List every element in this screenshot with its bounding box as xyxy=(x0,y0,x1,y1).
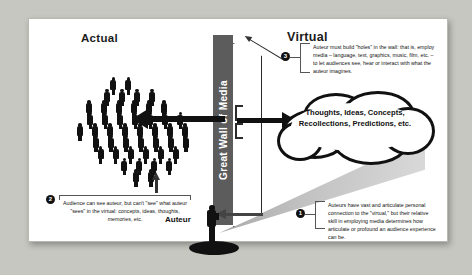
audience-figure-icon xyxy=(121,158,128,176)
callout-2-text: Audience can see auteur, but can't "see"… xyxy=(59,199,191,223)
audience-figure-icon xyxy=(133,169,140,187)
diagram-panel: Actual Virtual Great Wall of Media xyxy=(28,18,448,242)
audience-figure-icon xyxy=(97,146,104,164)
camera-icon xyxy=(214,213,219,220)
audience-crowd xyxy=(51,77,203,187)
callout-1-bullet: 1 xyxy=(296,209,305,218)
arrow-to-auteur-icon xyxy=(225,213,263,216)
callout-2: Audience can see auteur, but can't "see"… xyxy=(59,195,191,217)
audience-figure-icon xyxy=(183,135,190,153)
virtual-cloud: Thoughts, Ideas, Concepts, Recollections… xyxy=(277,91,433,167)
diagram-canvas: Actual Virtual Great Wall of Media xyxy=(0,0,472,275)
wall-label-text: Great Wall of Media xyxy=(218,80,229,180)
audience-figure-icon xyxy=(166,158,173,176)
callout-1: Auteurs have vast and articulate persona… xyxy=(315,201,437,227)
cloud-text: Thoughts, Ideas, Concepts, Recollections… xyxy=(285,107,425,129)
audience-figure-icon xyxy=(112,146,119,164)
wall-label: Great Wall of Media xyxy=(213,35,233,225)
callout-3: Auteur must build "holes" in the wall: t… xyxy=(300,43,434,71)
arrow-to-audience-icon xyxy=(147,116,225,122)
audience-figure-icon xyxy=(127,146,134,164)
heading-actual: Actual xyxy=(81,32,118,44)
wall-hole-lower-icon xyxy=(235,123,243,139)
diagram-content: Actual Virtual Great Wall of Media xyxy=(29,19,447,241)
callout-2-bullet: 2 xyxy=(46,195,55,204)
callout-3-bracket xyxy=(300,43,310,73)
audience-figure-icon xyxy=(172,146,179,164)
audience-figure-icon xyxy=(142,146,149,164)
auteur-legs xyxy=(209,226,215,244)
callout-1-bracket xyxy=(315,201,325,229)
audience-figure-icon xyxy=(76,123,83,141)
heading-virtual: Virtual xyxy=(287,30,328,44)
callout-3-text: Auteur must build "holes" in the wall: t… xyxy=(313,43,435,75)
auteur-figure-icon xyxy=(205,205,219,247)
arrow-audience-to-auteur-icon xyxy=(155,179,158,193)
audience-figure-icon xyxy=(125,77,132,95)
callout-1-text: Auteurs have vast and articulate persona… xyxy=(328,201,438,241)
callout-2-bracket xyxy=(59,195,191,197)
audience-figure-icon xyxy=(110,77,117,95)
audience-figure-icon xyxy=(157,146,164,164)
